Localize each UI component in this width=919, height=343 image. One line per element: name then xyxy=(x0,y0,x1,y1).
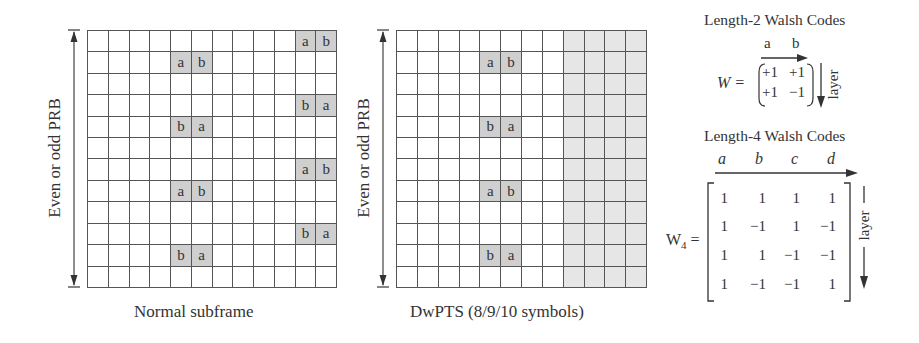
grid-cell xyxy=(233,95,254,116)
grid-cell xyxy=(460,138,481,159)
grid-cell xyxy=(605,267,626,288)
grid-cell xyxy=(418,31,439,52)
grid-cell xyxy=(605,95,626,116)
grid-cell xyxy=(397,117,418,138)
walsh2-col-label-b: b xyxy=(792,35,800,52)
grid-cell xyxy=(522,245,543,266)
grid-cell xyxy=(213,245,234,266)
grid-cell xyxy=(460,267,481,288)
walsh4-entry: 1 xyxy=(708,276,728,293)
grid-cell xyxy=(233,245,254,266)
grid-cell xyxy=(543,138,564,159)
grid-cell xyxy=(296,52,317,73)
dmrs-cell: b xyxy=(296,224,317,245)
walsh4-entry: 1 xyxy=(746,190,766,207)
grid-cell xyxy=(418,95,439,116)
walsh2-m10: +1 xyxy=(762,84,778,101)
walsh4-entry: 1 xyxy=(780,218,800,235)
grid-cell xyxy=(150,74,171,95)
grid-cell xyxy=(109,159,130,180)
grid-cell xyxy=(626,138,647,159)
grid-cell xyxy=(397,224,418,245)
grid-cell xyxy=(213,202,234,223)
grid-cell xyxy=(150,95,171,116)
grid-cell xyxy=(501,95,522,116)
grid-cell xyxy=(397,267,418,288)
grid-cell xyxy=(88,74,109,95)
grid-cell xyxy=(397,159,418,180)
grid-cell xyxy=(192,74,213,95)
grid-cell xyxy=(626,267,647,288)
grid-cell xyxy=(626,159,647,180)
grid-cell xyxy=(109,138,130,159)
grid-cell xyxy=(88,181,109,202)
grid-cell xyxy=(192,202,213,223)
grid-cell xyxy=(150,138,171,159)
dmrs-cell: b xyxy=(171,245,192,266)
grid-cell xyxy=(418,138,439,159)
dmrs-cell: a xyxy=(192,117,213,138)
grid-cell xyxy=(233,224,254,245)
grid-cell xyxy=(254,245,275,266)
grid-cell xyxy=(585,245,606,266)
grid-cell xyxy=(585,74,606,95)
grid-cell xyxy=(130,74,151,95)
walsh2-m11: −1 xyxy=(789,84,805,101)
dmrs-cell: b xyxy=(296,95,317,116)
grid-cell xyxy=(522,31,543,52)
grid-cell xyxy=(192,224,213,245)
walsh4-entry: −1 xyxy=(780,276,800,293)
grid-cell xyxy=(460,52,481,73)
grid-cell xyxy=(130,202,151,223)
grid-cell xyxy=(585,224,606,245)
grid-cell xyxy=(418,74,439,95)
grid-cell xyxy=(501,31,522,52)
dmrs-cell: b xyxy=(480,117,501,138)
grid-cell xyxy=(254,202,275,223)
grid-cell xyxy=(150,245,171,266)
grid-cell xyxy=(213,267,234,288)
dmrs-cell: b xyxy=(192,52,213,73)
grid-cell xyxy=(275,117,296,138)
grid-cell xyxy=(150,224,171,245)
grid-cell xyxy=(150,159,171,180)
grid-cell xyxy=(88,224,109,245)
grid-cell xyxy=(418,159,439,180)
grid-cell xyxy=(171,202,192,223)
grid-cell xyxy=(275,224,296,245)
dmrs-cell: b xyxy=(501,181,522,202)
grid-cell xyxy=(543,74,564,95)
grid-cell xyxy=(439,267,460,288)
grid-cell xyxy=(254,159,275,180)
grid-cell xyxy=(316,52,337,73)
grid-cell xyxy=(171,267,192,288)
grid-cell xyxy=(192,159,213,180)
grid-cell xyxy=(130,181,151,202)
grid-cell xyxy=(501,202,522,223)
grid-cell xyxy=(130,52,151,73)
grid-cell xyxy=(109,245,130,266)
grid-cell xyxy=(254,95,275,116)
grid-cell xyxy=(626,52,647,73)
grid-cell xyxy=(233,74,254,95)
grid-cell xyxy=(543,181,564,202)
grid-cell xyxy=(605,31,626,52)
grid-cell xyxy=(88,95,109,116)
grid-cell xyxy=(626,74,647,95)
left-y-axis-label: Even or odd PRB xyxy=(45,98,65,218)
grid-cell xyxy=(626,181,647,202)
grid-cell xyxy=(605,224,626,245)
grid-cell xyxy=(254,74,275,95)
grid-cell xyxy=(275,74,296,95)
grid-cell xyxy=(254,117,275,138)
grid-cell xyxy=(88,138,109,159)
walsh4-col-label-b: b xyxy=(755,150,763,168)
grid-cell xyxy=(397,95,418,116)
dmrs-cell: b xyxy=(316,159,337,180)
grid-cell xyxy=(439,138,460,159)
grid-cell xyxy=(480,74,501,95)
grid-cell xyxy=(213,95,234,116)
grid-cell xyxy=(316,181,337,202)
grid-cell xyxy=(522,95,543,116)
grid-cell xyxy=(439,95,460,116)
